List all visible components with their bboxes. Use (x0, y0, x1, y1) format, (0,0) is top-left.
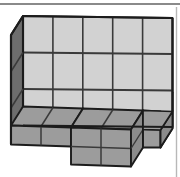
block-solid-group (11, 16, 173, 167)
block-diagram-svg: Rectangular solid of cubes, 5 wide and 3… (0, 0, 180, 177)
block-diagram-figure: Rectangular solid of cubes, 5 wide and 3… (0, 0, 180, 177)
main-solid-bottom-outline (23, 126, 173, 128)
